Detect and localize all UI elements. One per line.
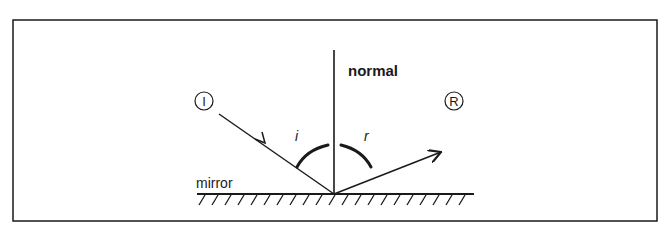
incident-ray-arrowhead [255, 132, 265, 143]
incident-ray-marker: I [195, 92, 213, 110]
incidence-angle-label: i [295, 128, 299, 144]
reflected-ray-marker: R [445, 92, 463, 110]
normal-label: normal [348, 62, 398, 79]
reflection-angle-label: r [364, 128, 370, 144]
incident-ray-line [219, 114, 334, 194]
reflected-ray [334, 152, 441, 194]
mirror-label: mirror [196, 175, 233, 191]
incidence-angle-arc [297, 145, 328, 167]
reflection-angle-arc [341, 145, 371, 167]
reflected-marker-text: R [449, 94, 458, 109]
mirror-hatching [199, 195, 465, 205]
incident-marker-text: I [202, 94, 206, 109]
reflection-diagram: i r normal mirror I R [0, 0, 671, 238]
frame-border [13, 20, 657, 221]
